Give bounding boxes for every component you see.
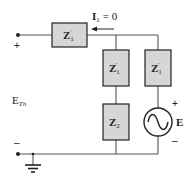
ground-icon: [25, 165, 41, 172]
z1-middle-impedance: Z1′: [103, 50, 129, 86]
z1-series-impedance: Z1′: [52, 23, 87, 47]
circuit-diagram: + – ETh I1= 0 Z1′ Z1′ Z1′ Z2: [0, 0, 194, 185]
z1-right-impedance: Z1′: [145, 50, 171, 86]
terminal-plus-sign: +: [14, 40, 20, 51]
wires: [18, 35, 158, 165]
z2-impedance: Z2: [103, 104, 129, 140]
current-arrow-icon: [91, 27, 114, 32]
terminal-top-dot: [16, 33, 20, 37]
ground-junction-dot: [32, 153, 35, 156]
terminal-minus-sign: –: [14, 137, 20, 148]
source-plus-sign: +: [172, 98, 178, 109]
ac-voltage-source: [144, 108, 172, 136]
current-label: I1= 0: [92, 10, 118, 24]
eth-label: ETh: [12, 94, 27, 108]
source-minus-sign: –: [172, 135, 178, 146]
terminal-bottom-dot: [16, 152, 20, 156]
source-label: E: [176, 116, 183, 128]
